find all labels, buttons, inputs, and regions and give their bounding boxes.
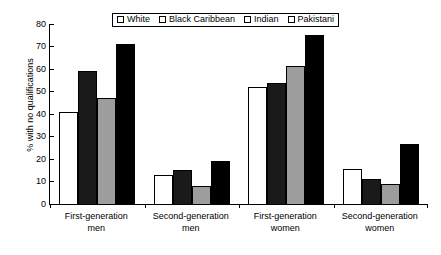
y-axis-tick-label: 50 — [36, 87, 50, 96]
legend-swatch-indian — [244, 16, 251, 23]
y-axis-tick-label: 40 — [36, 109, 50, 118]
legend-entry-white: White — [117, 15, 150, 24]
bar-pakistani — [116, 44, 135, 204]
y-axis-tick-label: 60 — [36, 64, 50, 73]
x-axis-label-line: Second-generation — [144, 210, 239, 222]
y-axis-tick-label: 30 — [36, 132, 50, 141]
bar-indian — [381, 184, 400, 204]
x-axis-label-first-generation-men: First-generationmen — [49, 210, 144, 234]
y-axis-title: % with no qualifications — [25, 25, 35, 185]
x-axis-tick-mark — [334, 204, 335, 208]
x-axis-label-line: First-generation — [238, 210, 333, 222]
y-axis-tick-label: 70 — [36, 42, 50, 51]
bar-black-caribbean — [267, 83, 286, 205]
legend-label-indian: Indian — [254, 15, 279, 24]
legend-swatch-white — [117, 16, 124, 23]
x-axis-label-second-generation-men: Second-generationmen — [144, 210, 239, 234]
bar-group-first-generation-men — [50, 24, 145, 204]
plot-area: 01020304050607080 — [49, 24, 428, 205]
legend-label-pakistani: Pakistani — [298, 15, 335, 24]
legend-swatch-black-caribbean — [159, 16, 166, 23]
legend-entry-indian: Indian — [244, 15, 279, 24]
x-axis-label-line: women — [333, 222, 428, 234]
bar-white — [343, 169, 362, 204]
x-axis-tick-mark — [145, 204, 146, 208]
y-axis-tick-label: 20 — [36, 154, 50, 163]
x-axis-label-first-generation-women: First-generationwomen — [238, 210, 333, 234]
y-axis-tick-label: 10 — [36, 177, 50, 186]
bar-group-second-generation-men — [145, 24, 240, 204]
bar-groups — [50, 24, 428, 204]
legend-entry-black-caribbean: Black Caribbean — [159, 15, 235, 24]
bar-black-caribbean — [78, 71, 97, 204]
legend-swatch-pakistani — [288, 16, 295, 23]
y-axis-tick-label: 0 — [41, 199, 50, 208]
legend-entry-pakistani: Pakistani — [288, 15, 335, 24]
bar-black-caribbean — [362, 179, 381, 204]
x-axis-label-line: men — [144, 222, 239, 234]
bar-white — [59, 112, 78, 204]
x-axis-label-line: Second-generation — [333, 210, 428, 222]
x-axis-label-second-generation-women: Second-generationwomen — [333, 210, 428, 234]
x-axis-label-line: men — [49, 222, 144, 234]
bar-pakistani — [400, 144, 419, 204]
bar-group-first-generation-women — [239, 24, 334, 204]
bar-white — [248, 87, 267, 204]
bar-black-caribbean — [173, 170, 192, 204]
bar-pakistani — [305, 35, 324, 204]
chart-legend: White Black Caribbean Indian Pakistani — [112, 13, 339, 27]
bar-pakistani — [211, 161, 230, 204]
x-axis-tick-mark — [427, 204, 428, 208]
bar-indian — [192, 186, 211, 204]
legend-label-black-caribbean: Black Caribbean — [169, 15, 235, 24]
bar-group-second-generation-women — [334, 24, 429, 204]
x-axis-labels: First-generationmenSecond-generationmenF… — [49, 210, 427, 234]
y-axis-tick-label: 80 — [36, 19, 50, 28]
x-axis-tick-mark — [50, 204, 51, 208]
bar-indian — [97, 98, 116, 204]
bar-chart: White Black Caribbean Indian Pakistani %… — [0, 0, 441, 255]
legend-label-white: White — [127, 15, 150, 24]
x-axis-tick-mark — [239, 204, 240, 208]
bar-indian — [286, 66, 305, 204]
x-axis-label-line: women — [238, 222, 333, 234]
x-axis-label-line: First-generation — [49, 210, 144, 222]
bar-white — [154, 175, 173, 204]
